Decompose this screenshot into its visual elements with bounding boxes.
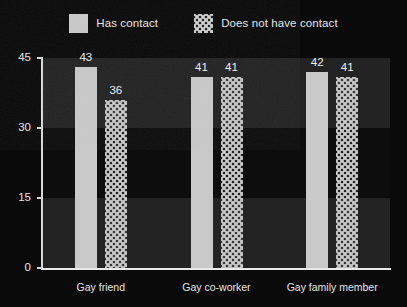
bar: [336, 77, 358, 268]
y-axis-tick-label: 0: [1, 262, 31, 274]
y-axis-tick-label: 15: [1, 192, 31, 204]
bar: [221, 77, 243, 268]
bar-value-label: 36: [96, 85, 136, 97]
bar-value-label: 43: [66, 52, 106, 64]
solid-square-swatch: [69, 14, 88, 33]
crosshatch-square-swatch: [194, 14, 213, 33]
y-axis-spine: [41, 57, 43, 269]
y-axis-tick: [37, 57, 42, 59]
legend-label: Does not have contact: [221, 18, 338, 30]
y-axis-tick: [37, 267, 42, 269]
x-axis-category-label: Gay friend: [43, 282, 159, 293]
x-axis-baseline: [41, 268, 391, 270]
bar-value-label: 41: [327, 62, 367, 74]
x-axis-category-label: Gay family member: [274, 282, 390, 293]
legend-label: Has contact: [96, 18, 158, 30]
bar: [191, 77, 213, 268]
bar: [75, 67, 97, 268]
bar: [306, 72, 328, 268]
legend-item-has-contact: Has contact: [69, 14, 158, 33]
y-axis-tick-label: 30: [1, 122, 31, 134]
bar: [105, 100, 127, 268]
chart-legend: Has contact Does not have contact: [0, 14, 407, 33]
x-axis-category-label: Gay co-worker: [159, 282, 275, 293]
y-axis-tick: [37, 127, 42, 129]
bar-value-label: 41: [212, 62, 252, 74]
y-axis-tick: [37, 197, 42, 199]
y-axis-tick-label: 45: [1, 52, 31, 64]
legend-item-does-not-have-contact: Does not have contact: [194, 14, 338, 33]
